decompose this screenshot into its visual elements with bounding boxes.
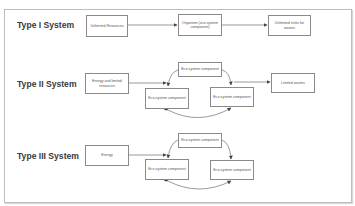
organism-box: Organism (eco-system component): [178, 14, 222, 36]
box-text: Unlimited Resources: [90, 24, 123, 28]
energy-limited-resources-box: Energy and limited resources: [85, 73, 129, 94]
box-text: Eco-system component: [213, 168, 251, 172]
type-ii-label: Type II System: [17, 79, 77, 89]
unlimited-resources-box: Unlimited Resources: [86, 15, 128, 37]
box-text: Energy: [101, 153, 112, 157]
box-text: Eco-system component: [181, 67, 219, 71]
box-text: Eco-system component: [181, 138, 219, 142]
type-iii-label: Type III System: [17, 151, 79, 161]
energy-box: Energy: [85, 145, 129, 166]
eco-component-top-box: Eco-system component: [178, 62, 222, 77]
box-text: Limited wastes: [281, 81, 305, 85]
eco-component-right-box: Eco-system component: [210, 87, 254, 107]
eco-component-top-box: Eco-system component: [178, 133, 222, 148]
box-text: Energy and limited resources: [87, 79, 127, 88]
box-text: Organism (eco-system component): [180, 21, 220, 30]
box-text: Unlimited sinks for wastes: [270, 21, 309, 30]
eco-component-right-box: Eco-system component: [210, 160, 254, 180]
type-i-label: Type I System: [17, 20, 74, 30]
unlimited-sinks-box: Unlimited sinks for wastes: [268, 15, 311, 36]
eco-component-left-box: Eco-system component: [145, 159, 189, 180]
eco-component-left-box: Eco-system component: [145, 88, 189, 109]
box-text: Eco-system component: [213, 95, 251, 99]
box-text: Eco-system component: [148, 167, 186, 171]
limited-wastes-box: Limited wastes: [271, 73, 315, 93]
box-text: Eco-system component: [148, 96, 186, 100]
